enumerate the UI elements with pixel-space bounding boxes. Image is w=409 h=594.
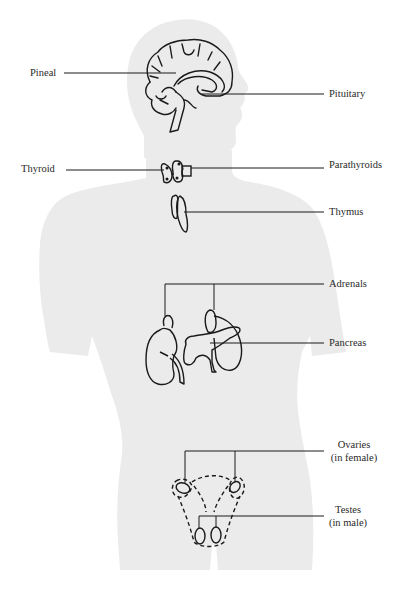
label-ovaries-line2: (in female) bbox=[326, 451, 382, 464]
label-ovaries-line1: Ovaries bbox=[326, 438, 382, 451]
label-thymus: Thymus bbox=[329, 205, 363, 218]
label-parathyroids: Parathyroids bbox=[329, 158, 382, 171]
label-testes: Testes (in male) bbox=[326, 503, 370, 529]
body-silhouette bbox=[39, 19, 346, 570]
label-ovaries: Ovaries (in female) bbox=[326, 438, 382, 464]
label-adrenals: Adrenals bbox=[329, 277, 367, 290]
label-testes-line2: (in male) bbox=[326, 516, 370, 529]
label-pancreas: Pancreas bbox=[329, 336, 366, 349]
label-testes-line1: Testes bbox=[326, 503, 370, 516]
label-pituitary: Pituitary bbox=[329, 87, 365, 100]
label-thyroid: Thyroid bbox=[21, 162, 55, 175]
label-pineal: Pineal bbox=[30, 66, 56, 79]
